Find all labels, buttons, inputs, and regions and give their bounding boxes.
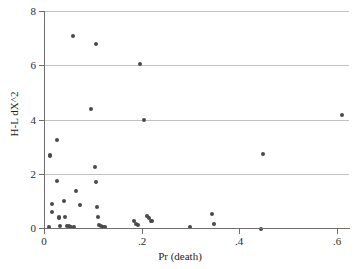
data-point [55, 138, 59, 142]
data-point [150, 219, 154, 223]
x-tick-label: .4 [235, 235, 243, 247]
data-point [62, 199, 66, 203]
x-tick-mark [142, 229, 143, 234]
y-gridline [44, 65, 349, 66]
data-point [93, 165, 97, 169]
data-point [89, 107, 93, 111]
y-tick-label: 0 [20, 222, 36, 234]
y-tick-label: 4 [20, 114, 36, 126]
y-tick-label: 8 [20, 5, 36, 17]
y-axis-line [44, 11, 45, 228]
y-tick-mark [39, 120, 44, 121]
y-tick-mark [39, 11, 44, 12]
x-tick-mark [239, 229, 240, 234]
y-gridline [44, 174, 349, 175]
y-gridline [44, 120, 349, 121]
data-point [57, 216, 61, 220]
data-point [212, 222, 216, 226]
x-tick-mark [337, 229, 338, 234]
y-tick-label: 2 [20, 168, 36, 180]
x-axis-title: Pr (death) [0, 250, 360, 262]
data-point [48, 154, 52, 158]
data-point [261, 152, 265, 156]
data-point [63, 215, 67, 219]
data-point [94, 42, 98, 46]
data-point [96, 215, 100, 219]
scatter-plot-figure: 02468 0.2.4.6 H-L dX^2 Pr (death) [0, 0, 360, 269]
data-point [142, 118, 146, 122]
data-point [50, 202, 54, 206]
data-point [50, 210, 54, 214]
y-tick-mark [39, 174, 44, 175]
data-point [74, 189, 78, 193]
y-tick-mark [39, 65, 44, 66]
x-tick-label: .6 [333, 235, 341, 247]
data-point [78, 203, 82, 207]
data-point [136, 223, 140, 227]
y-gridline [44, 11, 349, 12]
data-point [210, 212, 214, 216]
data-point [71, 34, 75, 38]
data-point [55, 179, 59, 183]
x-tick-label: 0 [41, 235, 47, 247]
y-axis-title: H-L dX^2 [8, 54, 20, 174]
x-axis-line [44, 228, 350, 229]
data-point [95, 205, 99, 209]
x-tick-label: .2 [138, 235, 146, 247]
x-tick-mark [44, 229, 45, 234]
data-point [94, 180, 98, 184]
data-point [138, 62, 142, 66]
y-tick-label: 6 [20, 59, 36, 71]
data-point [340, 113, 344, 117]
